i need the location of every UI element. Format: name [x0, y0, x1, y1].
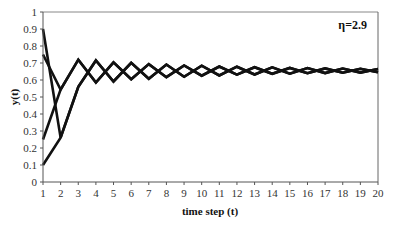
- y-tick-label: 0.8: [23, 40, 37, 52]
- y-tick-label: 0.7: [23, 57, 37, 69]
- line-chart: 00.10.20.30.40.50.60.70.80.9112345678910…: [0, 0, 393, 227]
- x-tick-label: 3: [76, 187, 82, 199]
- x-tick-label: 10: [196, 187, 208, 199]
- x-tick-label: 12: [231, 187, 242, 199]
- series-line-1: [43, 29, 378, 138]
- y-tick-label: 0.4: [23, 108, 37, 120]
- x-tick-label: 6: [128, 187, 134, 199]
- x-tick-label: 7: [146, 187, 152, 199]
- x-tick-label: 19: [355, 187, 367, 199]
- eta-annotation: η=2.9: [338, 18, 367, 32]
- y-tick-label: 0.5: [23, 91, 37, 103]
- y-tick-label: 0.3: [23, 125, 37, 137]
- y-tick-label: 1: [32, 6, 38, 18]
- y-tick-label: 0.1: [23, 159, 37, 171]
- y-axis-title: y(t): [8, 88, 21, 105]
- x-tick-label: 20: [373, 187, 385, 199]
- x-tick-label: 18: [337, 187, 349, 199]
- x-tick-label: 11: [214, 187, 225, 199]
- x-tick-label: 4: [93, 187, 99, 199]
- x-tick-label: 2: [58, 187, 64, 199]
- x-tick-label: 1: [40, 187, 46, 199]
- y-tick-label: 0.9: [23, 23, 37, 35]
- y-tick-label: 0: [32, 176, 38, 188]
- x-tick-label: 15: [284, 187, 296, 199]
- y-tick-label: 0.6: [23, 74, 37, 86]
- x-tick-label: 17: [320, 187, 332, 199]
- y-tick-label: 0.2: [23, 142, 37, 154]
- x-tick-label: 14: [267, 187, 279, 199]
- x-axis-title: time step (t): [182, 205, 239, 218]
- x-tick-label: 13: [249, 187, 261, 199]
- x-tick-label: 8: [164, 187, 170, 199]
- series-line-4: [43, 61, 378, 166]
- x-tick-label: 5: [111, 187, 117, 199]
- x-tick-label: 16: [302, 187, 314, 199]
- x-tick-label: 9: [181, 187, 187, 199]
